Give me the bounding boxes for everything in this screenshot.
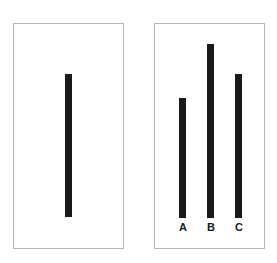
label-a: A — [176, 221, 190, 233]
reference-card — [13, 23, 124, 249]
comparison-line-a — [179, 98, 186, 218]
comparison-card: A B C — [154, 23, 265, 249]
label-b: B — [204, 221, 218, 233]
reference-line — [65, 74, 72, 217]
label-c: C — [232, 221, 246, 233]
comparison-line-c — [235, 74, 242, 218]
comparison-line-b — [207, 44, 214, 218]
